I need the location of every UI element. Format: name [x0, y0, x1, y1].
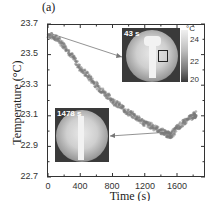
time-label: 1478 s [57, 109, 81, 118]
thermal-image-inset-top: 43 s [122, 28, 180, 82]
colorbar-label: 20 [190, 75, 199, 84]
roi-box [158, 50, 168, 62]
time-label: 43 s [124, 29, 140, 38]
colorbar [181, 30, 188, 82]
colorbar-label: 22 [190, 57, 199, 66]
probe-bar [78, 116, 84, 160]
probe-head [144, 36, 161, 46]
colorbar-unit: °C [186, 24, 195, 33]
colorbar-label: 24 [190, 35, 199, 44]
thermal-image-inset-bottom: 1478 s [55, 108, 109, 162]
